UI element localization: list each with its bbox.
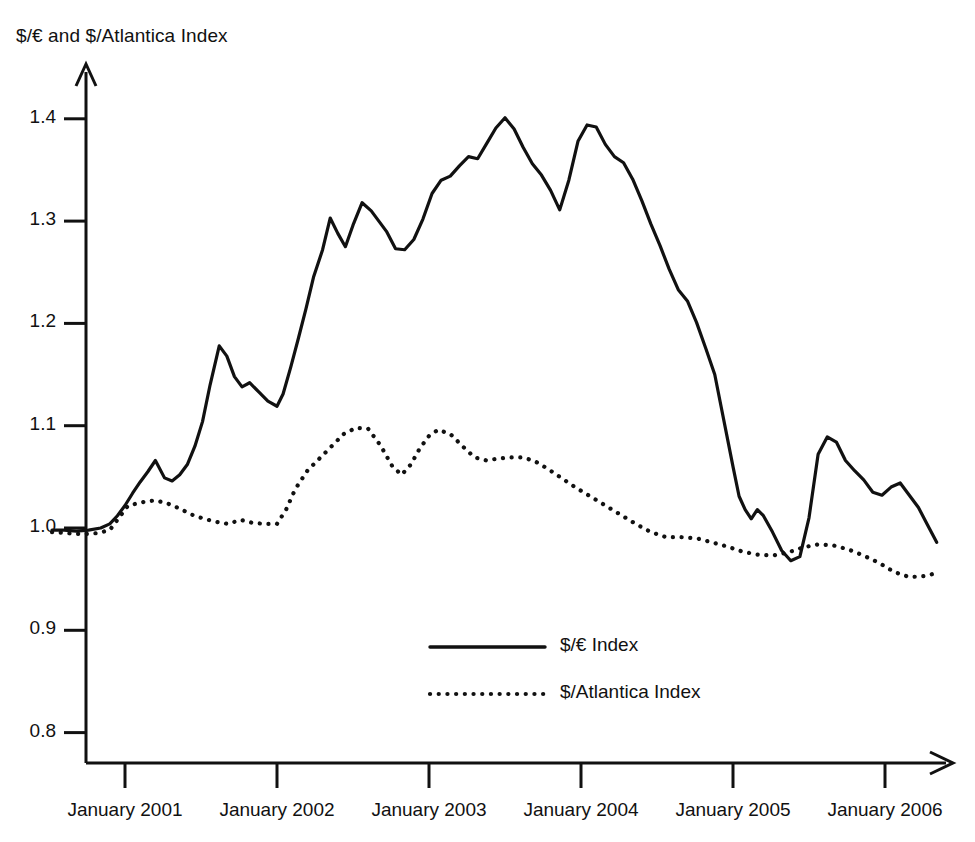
data-series-group: [52, 118, 937, 577]
x-tick-label: January 2003: [349, 799, 509, 821]
x-tick-label: January 2002: [197, 799, 357, 821]
x-tick-label: January 2001: [45, 799, 205, 821]
x-tick-marks: [125, 763, 885, 788]
y-tick-label: 1.2: [0, 310, 56, 332]
legend-sample-lines: [430, 647, 545, 694]
y-tick-label: 0.8: [0, 720, 56, 742]
series-line-2: [52, 428, 937, 577]
series-line-1: [52, 118, 937, 561]
y-tick-label: 1.1: [0, 413, 56, 435]
legend-entry-label: $/€ Index: [560, 634, 638, 656]
x-tick-label: January 2004: [501, 799, 661, 821]
y-tick-label: 1.4: [0, 106, 56, 128]
y-tick-label: 0.9: [0, 617, 56, 639]
y-tick-label: 1.3: [0, 208, 56, 230]
y-tick-marks: [64, 119, 86, 733]
legend-entry-label: $/Atlantica Index: [560, 681, 700, 703]
axis-group: [76, 64, 953, 774]
y-tick-label: 1.0: [0, 515, 56, 537]
plot-area: [0, 0, 975, 842]
x-tick-label: January 2006: [805, 799, 965, 821]
x-tick-label: January 2005: [653, 799, 813, 821]
chart-figure: $/€ and $/Atlantica Index 1.41.31.21.11.…: [0, 0, 975, 842]
